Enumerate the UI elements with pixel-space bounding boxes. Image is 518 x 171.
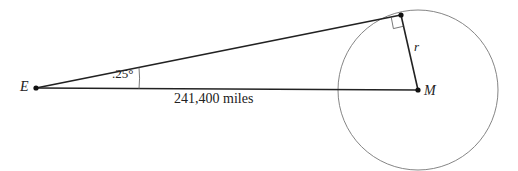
angle-label: .25° [112, 66, 133, 82]
moon-center-point [415, 87, 420, 92]
earth-point [33, 85, 38, 90]
earth-label: E [20, 79, 29, 95]
distance-label: 241,400 miles [174, 91, 253, 107]
tangent-point [398, 12, 403, 17]
radius-label: r [414, 39, 419, 55]
diagram-canvas [0, 0, 518, 171]
earth-moon-diagram: E M r .25° 241,400 miles [0, 0, 518, 171]
angle-arc [139, 67, 140, 89]
moon-label: M [424, 83, 436, 99]
tangent-line [36, 15, 401, 88]
distance-line [36, 88, 418, 90]
